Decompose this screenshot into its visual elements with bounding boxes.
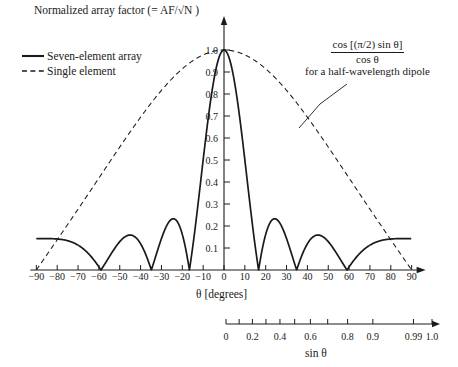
secondary-axis-label: sin θ bbox=[305, 347, 327, 359]
legend-label-single-element: Single element bbox=[47, 65, 116, 77]
secondary-tick-label: 1.0 bbox=[426, 331, 439, 342]
x-tick-label: −90 bbox=[29, 271, 45, 282]
y-tick-label: 0.1 bbox=[188, 243, 218, 254]
x-tick-label: 10 bbox=[240, 271, 250, 282]
annotation-denominator: cos θ bbox=[305, 53, 430, 66]
y-tick-label: 1.0 bbox=[188, 45, 218, 56]
y-axis-arrow bbox=[221, 16, 227, 25]
x-axis-label: θ [degrees] bbox=[196, 288, 247, 300]
x-tick-label: 60 bbox=[344, 271, 354, 282]
x-tick-label: 50 bbox=[323, 271, 333, 282]
y-tick-label: 0.5 bbox=[188, 155, 218, 166]
x-tick-label: 30 bbox=[282, 271, 292, 282]
secondary-tick-label: 0.2 bbox=[246, 331, 259, 342]
annotation-leader-line bbox=[299, 84, 347, 128]
x-tick-label: −10 bbox=[195, 271, 211, 282]
x-tick-label: 80 bbox=[386, 271, 396, 282]
y-tick-label: 0.8 bbox=[188, 89, 218, 100]
annotation-numerator: cos [(π/2) sin θ] bbox=[331, 38, 405, 53]
x-tick-label: −80 bbox=[49, 271, 65, 282]
x-tick-label: −30 bbox=[154, 271, 170, 282]
secondary-tick-label: 0.6 bbox=[304, 331, 317, 342]
secondary-tick-label: 0.99 bbox=[405, 331, 423, 342]
y-tick-label: 0.7 bbox=[188, 111, 218, 122]
y-tick-label: 0.3 bbox=[188, 199, 218, 210]
x-tick-label: 70 bbox=[365, 271, 375, 282]
annotation-formula: cos [(π/2) sin θ] cos θ for a half-wavel… bbox=[305, 38, 430, 78]
x-axis-arrow bbox=[417, 267, 426, 273]
secondary-tick-label: 0.4 bbox=[274, 331, 287, 342]
x-tick-label: 0 bbox=[222, 271, 227, 282]
y-tick-label: 0.2 bbox=[188, 221, 218, 232]
y-tick-label: 0.4 bbox=[188, 177, 218, 188]
x-tick-label: 20 bbox=[261, 271, 271, 282]
x-tick-label: −60 bbox=[91, 271, 107, 282]
x-tick-label: −50 bbox=[112, 271, 128, 282]
secondary-tick-label: 0.8 bbox=[341, 331, 354, 342]
secondary-tick-label: 0 bbox=[224, 331, 229, 342]
x-tick-label: −40 bbox=[133, 271, 149, 282]
x-tick-label: −70 bbox=[70, 271, 86, 282]
secondary-axis-arrow bbox=[432, 321, 440, 327]
figure: Normalized array factor (= AF/√N ) Seven… bbox=[0, 0, 458, 367]
annotation-subtitle: for a half-wavelength dipole bbox=[305, 65, 430, 78]
secondary-axis-layer bbox=[226, 319, 440, 327]
legend-label-seven-element: Seven-element array bbox=[47, 50, 142, 62]
y-tick-label: 0.9 bbox=[188, 67, 218, 78]
x-tick-label: 90 bbox=[407, 271, 417, 282]
page-title: Normalized array factor (= AF/√N ) bbox=[34, 4, 199, 16]
y-tick-label: 0.6 bbox=[188, 133, 218, 144]
x-tick-label: 40 bbox=[302, 271, 312, 282]
secondary-tick-label: 0.9 bbox=[367, 331, 380, 342]
x-tick-label: −20 bbox=[174, 271, 190, 282]
